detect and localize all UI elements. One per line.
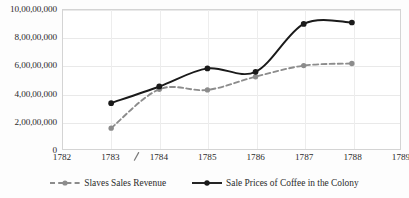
x-axis-tick: 1787 [295, 152, 313, 162]
plot-area [62, 9, 401, 150]
data-point-marker [301, 63, 306, 68]
chart-legend: Slaves Sales Revenue Sale Prices of Coff… [0, 172, 409, 194]
x-axis-tick-labels: 17821783178417851786178717881789 [62, 151, 401, 169]
legend-item-sale-prices-of-coffee: Sale Prices of Coffee in the Colony [192, 178, 359, 188]
legend-swatch-solid-line [192, 178, 222, 188]
data-point-marker [349, 61, 354, 66]
y-axis-tick-labels: 02,00,00,0004,00,00,0006,00,00,0008,00,0… [0, 0, 60, 160]
y-axis-tick: 2,00,00,000 [14, 117, 57, 127]
data-point-marker [108, 125, 113, 130]
x-axis-tick: 1789 [392, 152, 409, 162]
series-line-slaves-sales-revenue [111, 64, 352, 129]
data-point-marker [156, 84, 162, 90]
legend-label-sale-prices-of-coffee: Sale Prices of Coffee in the Colony [226, 178, 359, 188]
data-point-marker [253, 74, 258, 79]
data-point-marker [205, 87, 210, 92]
legend-item-slaves-sales-revenue: Slaves Sales Revenue [50, 178, 166, 188]
x-axis-tick: 1788 [343, 152, 361, 162]
line-chart-figure: 02,00,00,0004,00,00,0006,00,00,0008,00,0… [0, 0, 409, 198]
series-layer [63, 10, 400, 149]
y-axis-tick: 6,00,00,000 [14, 60, 57, 70]
legend-swatch-dashed-line [50, 178, 80, 188]
x-axis-tick: 1784 [150, 152, 168, 162]
y-axis-tick: 10,00,00,000 [10, 4, 57, 14]
data-point-marker [108, 100, 114, 106]
data-point-marker [301, 21, 307, 27]
x-axis-tick: 1786 [247, 152, 265, 162]
data-point-marker [253, 69, 259, 75]
series-line-sale-prices-of-coffee [111, 20, 352, 103]
y-axis-tick: 4,00,00,000 [14, 89, 57, 99]
x-axis-tick: 1783 [101, 152, 119, 162]
data-point-marker [349, 20, 355, 26]
data-point-marker [205, 66, 211, 72]
legend-label-slaves-sales-revenue: Slaves Sales Revenue [84, 178, 166, 188]
y-axis-tick: 8,00,00,000 [14, 32, 57, 42]
x-axis-tick: 1782 [53, 152, 71, 162]
x-axis-tick: 1785 [198, 152, 216, 162]
